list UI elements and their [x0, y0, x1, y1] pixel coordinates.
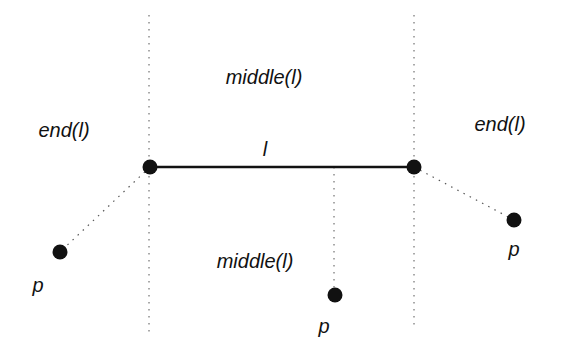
point-p-left: [53, 245, 68, 260]
segment-start-point: [143, 160, 158, 175]
label-p-left: p: [31, 274, 43, 296]
point-p-right: [507, 213, 522, 228]
left-distance-connector: [60, 167, 150, 252]
right-distance-connector: [414, 167, 514, 220]
label-end-right: end(l): [474, 113, 525, 135]
label-p-right: p: [507, 238, 519, 260]
segment-end-point: [407, 160, 422, 175]
point-p-middle: [328, 288, 343, 303]
segment-region-diagram: middle(l) end(l) end(l) l middle(l) p p …: [0, 0, 562, 356]
label-segment-l: l: [263, 138, 268, 160]
label-end-left: end(l): [38, 119, 89, 141]
label-middle-top: middle(l): [226, 66, 303, 88]
label-p-middle: p: [317, 315, 329, 337]
label-middle-bottom: middle(l): [217, 250, 294, 272]
